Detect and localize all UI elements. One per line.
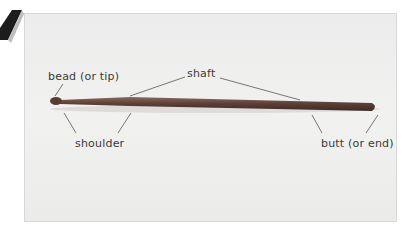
label-shaft: shaft [187, 67, 215, 80]
label-butt: butt (or end) [321, 137, 394, 150]
label-shoulder: shoulder [75, 137, 124, 150]
label-bead: bead (or tip) [48, 70, 119, 83]
drumstick-illustration [0, 0, 416, 232]
stick-bead [50, 97, 62, 105]
